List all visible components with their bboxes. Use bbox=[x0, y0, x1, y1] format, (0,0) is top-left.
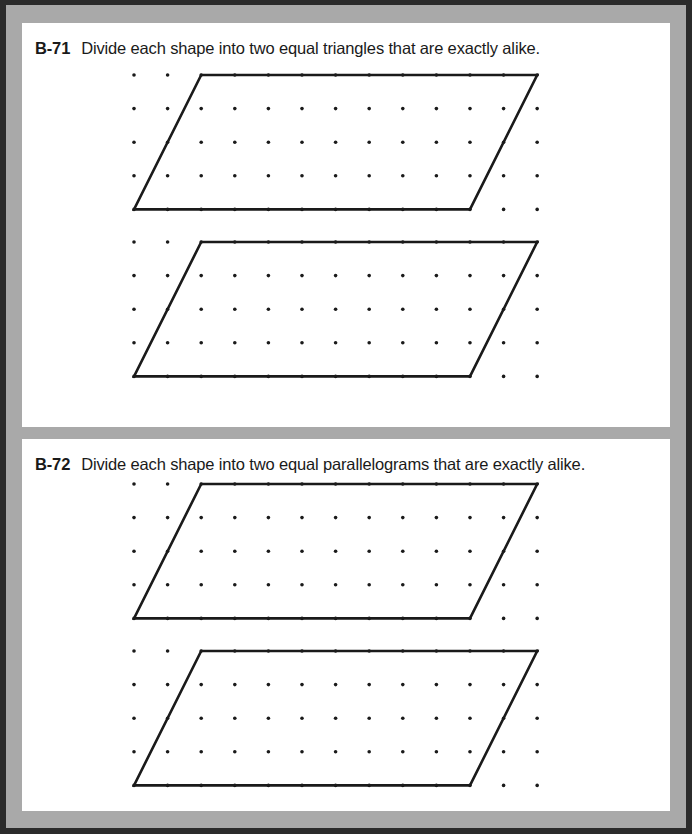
grid-dot bbox=[401, 683, 405, 687]
geoboard-figure-b72-2[interactable] bbox=[126, 643, 545, 793]
grid-dot bbox=[435, 341, 439, 345]
grid-dot bbox=[267, 516, 271, 520]
grid-dot bbox=[132, 683, 136, 687]
worksheet-page: B-71Divide each shape into two equal tri… bbox=[0, 0, 692, 834]
exercise-prompt-b72: B-72Divide each shape into two equal par… bbox=[35, 455, 585, 474]
grid-dot bbox=[535, 107, 539, 111]
geoboard-svg bbox=[126, 67, 545, 217]
grid-dot bbox=[334, 683, 338, 687]
grid-dot bbox=[502, 208, 506, 212]
grid-dot bbox=[468, 583, 472, 587]
grid-dot bbox=[502, 174, 506, 178]
grid-dot bbox=[233, 716, 237, 720]
grid-dot bbox=[233, 341, 237, 345]
grid-dot bbox=[401, 341, 405, 345]
grid-dot bbox=[267, 140, 271, 144]
grid-dot bbox=[233, 683, 237, 687]
grid-dot bbox=[468, 307, 472, 311]
grid-dot bbox=[502, 516, 506, 520]
grid-dot bbox=[435, 750, 439, 754]
grid-dot bbox=[502, 274, 506, 278]
grid-dot bbox=[267, 683, 271, 687]
grid-dot bbox=[132, 307, 136, 311]
grid-dot bbox=[300, 683, 304, 687]
grid-dot bbox=[535, 375, 539, 379]
grid-dot bbox=[300, 516, 304, 520]
grid-dot bbox=[334, 583, 338, 587]
grid-dot bbox=[267, 274, 271, 278]
grid-dot bbox=[435, 174, 439, 178]
grid-dot bbox=[199, 107, 203, 111]
grid-dot bbox=[132, 107, 136, 111]
grid-dot bbox=[199, 549, 203, 553]
grid-dot bbox=[267, 750, 271, 754]
grid-dot bbox=[132, 516, 136, 520]
grid-dot bbox=[199, 274, 203, 278]
grid-dot bbox=[166, 240, 170, 244]
grid-dot bbox=[535, 716, 539, 720]
grid-dot bbox=[300, 549, 304, 553]
grid-dot bbox=[132, 482, 136, 486]
grid-dot bbox=[166, 174, 170, 178]
grid-dot bbox=[267, 307, 271, 311]
grid-dot bbox=[267, 174, 271, 178]
grid-dot bbox=[435, 140, 439, 144]
grid-dot bbox=[401, 716, 405, 720]
grid-dot bbox=[334, 341, 338, 345]
grid-dot bbox=[502, 617, 506, 621]
grid-dot bbox=[468, 174, 472, 178]
grid-dot bbox=[233, 307, 237, 311]
grid-dot bbox=[535, 750, 539, 754]
geoboard-svg bbox=[126, 476, 545, 626]
grid-dot bbox=[435, 307, 439, 311]
grid-dot bbox=[435, 549, 439, 553]
geoboard-figure-b72-1[interactable] bbox=[126, 476, 545, 626]
grid-dot bbox=[367, 341, 371, 345]
grid-dot bbox=[468, 341, 472, 345]
grid-dot bbox=[334, 174, 338, 178]
grid-dot bbox=[166, 516, 170, 520]
grid-dot bbox=[502, 341, 506, 345]
grid-dot bbox=[367, 274, 371, 278]
grid-dot bbox=[435, 716, 439, 720]
grid-dot bbox=[166, 341, 170, 345]
exercise-text-b72: Divide each shape into two equal paralle… bbox=[81, 455, 585, 473]
grid-dot bbox=[267, 716, 271, 720]
geoboard-figure-b71-1[interactable] bbox=[126, 67, 545, 217]
grid-dot bbox=[535, 208, 539, 212]
grid-dot bbox=[468, 274, 472, 278]
grid-dot bbox=[199, 716, 203, 720]
grid-dot bbox=[535, 683, 539, 687]
grid-dot bbox=[233, 140, 237, 144]
grid-dot bbox=[367, 140, 371, 144]
grid-dot bbox=[502, 683, 506, 687]
grid-dot bbox=[502, 750, 506, 754]
grid-dot bbox=[535, 174, 539, 178]
grid-dot bbox=[334, 750, 338, 754]
grid-dot bbox=[300, 341, 304, 345]
grid-dot bbox=[401, 516, 405, 520]
grid-dot bbox=[300, 750, 304, 754]
grid-dot bbox=[401, 140, 405, 144]
grid-dot bbox=[199, 750, 203, 754]
exercise-prompt-b71: B-71Divide each shape into two equal tri… bbox=[35, 39, 540, 58]
grid-dot bbox=[132, 240, 136, 244]
grid-dot bbox=[300, 174, 304, 178]
grid-dot bbox=[300, 307, 304, 311]
grid-dot bbox=[233, 107, 237, 111]
grid-dot bbox=[401, 107, 405, 111]
grid-dot bbox=[300, 583, 304, 587]
grid-dot bbox=[334, 516, 338, 520]
grid-dot bbox=[199, 341, 203, 345]
grid-dot bbox=[267, 583, 271, 587]
grid-dot bbox=[401, 174, 405, 178]
grid-dot bbox=[535, 307, 539, 311]
geoboard-figure-b71-2[interactable] bbox=[126, 234, 545, 384]
grid-dot bbox=[435, 683, 439, 687]
grid-dot bbox=[502, 583, 506, 587]
grid-dot bbox=[132, 341, 136, 345]
grid-dot bbox=[132, 140, 136, 144]
grid-dot bbox=[166, 274, 170, 278]
grid-dot bbox=[132, 716, 136, 720]
grid-dot bbox=[166, 683, 170, 687]
